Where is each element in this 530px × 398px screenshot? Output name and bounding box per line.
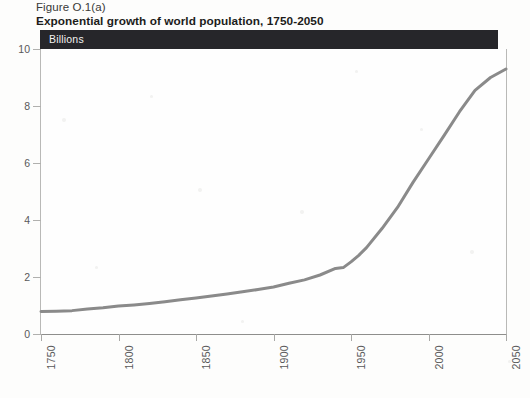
x-axis-tick	[196, 334, 197, 341]
paper-speckle	[241, 320, 244, 323]
x-axis-tick	[429, 334, 430, 341]
paper-speckle	[420, 128, 423, 131]
y-axis-tick	[33, 334, 41, 335]
y-axis-tick	[33, 220, 41, 221]
figure-container: Figure O.1(a) Exponential growth of worl…	[0, 0, 530, 398]
x-axis: 1750180018501900195020002050	[41, 49, 506, 334]
paper-speckle	[355, 70, 358, 73]
figure-number: Figure O.1(a)	[36, 1, 106, 13]
paper-speckle	[470, 250, 474, 254]
chart-plot-area: 1750180018501900195020002050 0246810	[40, 49, 507, 335]
unit-banner-label: Billions	[49, 33, 84, 45]
y-axis-tick-label: 6	[24, 157, 30, 169]
unit-banner: Billions	[40, 30, 498, 49]
x-axis-tick-label: 2050	[510, 345, 522, 370]
x-axis-tick-label: 1850	[200, 345, 212, 370]
y-axis-tick	[33, 277, 41, 278]
paper-speckle	[198, 188, 202, 192]
paper-speckle	[508, 360, 511, 363]
y-axis-tick-label: 0	[24, 328, 30, 340]
y-axis-tick-label: 10	[18, 43, 30, 55]
y-axis-tick	[33, 49, 41, 50]
paper-speckle	[300, 210, 304, 214]
x-axis-tick	[351, 334, 352, 341]
x-axis-tick-label: 1800	[123, 345, 135, 370]
x-axis-tick	[119, 334, 120, 341]
x-axis-tick-label: 1750	[45, 345, 57, 370]
y-axis-tick-label: 4	[24, 214, 30, 226]
paper-speckle	[95, 266, 98, 269]
x-axis-tick	[506, 334, 507, 341]
y-axis-tick	[33, 163, 41, 164]
y-axis-tick	[33, 106, 41, 107]
y-axis-tick-label: 8	[24, 100, 30, 112]
x-axis-tick	[274, 334, 275, 341]
y-axis-tick-label: 2	[24, 271, 30, 283]
paper-speckle	[150, 95, 153, 98]
page-title: Exponential growth of world population, …	[36, 14, 324, 28]
x-axis-tick-label: 1950	[355, 345, 367, 370]
paper-speckle	[62, 118, 66, 122]
x-axis-tick-label: 2000	[433, 345, 445, 370]
x-axis-tick-label: 1900	[278, 345, 290, 370]
x-axis-tick	[41, 334, 42, 341]
